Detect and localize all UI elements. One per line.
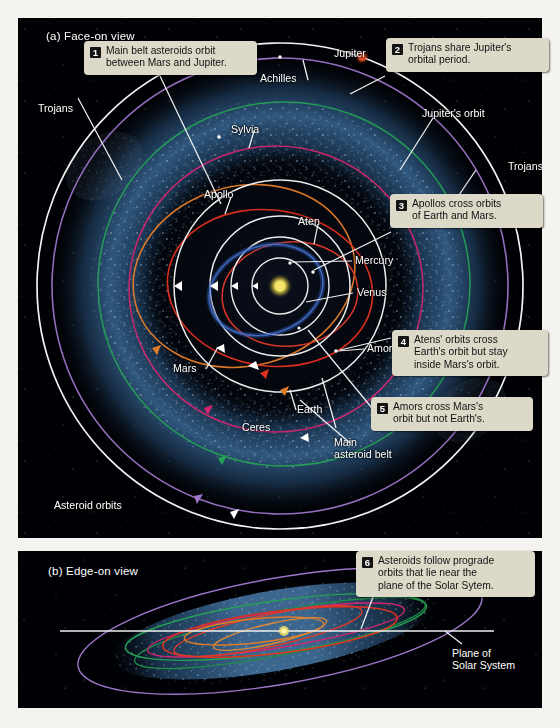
callout-1[interactable]: 1 Main belt asteroids orbit between Mars… — [84, 41, 257, 75]
label-earth: Earth — [297, 403, 322, 415]
label-main-asteroid-belt: Main asteroid belt — [334, 436, 392, 460]
callout-4-number: 4 — [398, 336, 409, 347]
callout-5-number: 5 — [377, 403, 388, 414]
panel-b-label: (b) Edge-on view — [48, 565, 138, 577]
label-jupiter: Jupiter — [334, 47, 366, 59]
callout-1-number: 1 — [90, 47, 101, 58]
face-on-leader-lines — [18, 18, 542, 538]
label-ceres: Ceres — [242, 421, 270, 433]
label-venus: Venus — [357, 286, 386, 298]
callout-1-text: Main belt asteroids orbit between Mars a… — [106, 45, 227, 70]
callout-5[interactable]: 5 Amors cross Mars's orbit but not Earth… — [371, 397, 533, 431]
panel-face-on-view: (a) Face-on view Trojans Trojans Achille… — [18, 18, 542, 538]
callout-3[interactable]: 3 Apollos cross orbits of Earth and Mars… — [390, 194, 543, 228]
label-achilles: Achilles — [260, 72, 297, 84]
callout-3-number: 3 — [396, 200, 407, 211]
label-asteroid-orbits: Asteroid orbits — [54, 499, 122, 511]
callout-6-text: Asteroids follow prograde orbits that li… — [378, 555, 494, 592]
label-trojans-left: Trojans — [38, 102, 73, 114]
face-on-orbit-graphic — [18, 18, 542, 538]
asteroid-orbits-figure: (a) Face-on view Trojans Trojans Achille… — [0, 0, 560, 728]
callout-2-text: Trojans share Jupiter's orbital period. — [408, 42, 511, 67]
label-aten: Aten — [298, 215, 320, 227]
label-trojans-right: Trojans — [508, 160, 542, 172]
callout-4[interactable]: 4 Atens' orbits cross Earth's orbit but … — [392, 330, 548, 376]
label-plane-of-solar-system: Plane of Solar System — [452, 647, 515, 671]
callout-2-number: 2 — [392, 44, 403, 55]
callout-3-text: Apollos cross orbits of Earth and Mars. — [412, 198, 501, 223]
label-amor: Amor — [367, 342, 392, 354]
label-mars: Mars — [173, 362, 197, 374]
callout-6-number: 6 — [362, 557, 373, 568]
label-mercury: Mercury — [355, 254, 393, 266]
callout-4-text: Atens' orbits cross Earth's orbit but st… — [414, 334, 508, 371]
label-sylvia: Sylvia — [231, 123, 259, 135]
callout-5-text: Amors cross Mars's orbit but not Earth's… — [393, 401, 485, 426]
callout-6[interactable]: 6 Asteroids follow prograde orbits that … — [356, 551, 535, 597]
label-apollo: Apollo — [204, 188, 233, 200]
label-jupiters-orbit: Jupiter's orbit — [422, 107, 485, 119]
callout-2[interactable]: 2 Trojans share Jupiter's orbital period… — [386, 38, 549, 72]
